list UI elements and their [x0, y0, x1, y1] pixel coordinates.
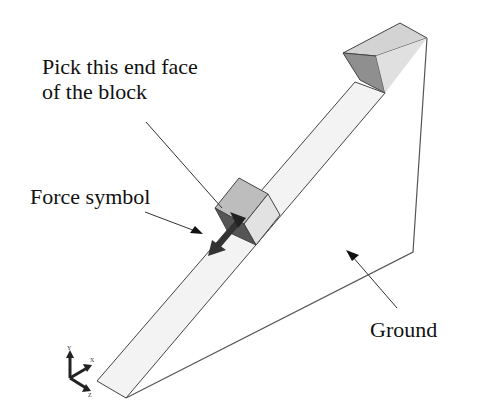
pick-face-line2: of the block [42, 79, 198, 104]
pick-face-line1: Pick this end face [42, 54, 198, 79]
triad-y-label: Y [67, 345, 72, 351]
pick-face-leader [146, 122, 222, 208]
force-symbol-leader [145, 212, 198, 232]
force-symbol-annotation: Force symbol [30, 184, 150, 209]
ground-annotation: Ground [370, 317, 437, 342]
triad-z-label: Z [88, 392, 92, 398]
ground-arrowhead [346, 250, 359, 261]
incline-beam[interactable] [97, 82, 385, 398]
pick-face-annotation: Pick this end face of the block [42, 54, 198, 104]
triad-x-label: X [90, 357, 95, 363]
coordinate-triad-icon: Y X Z [66, 345, 95, 398]
